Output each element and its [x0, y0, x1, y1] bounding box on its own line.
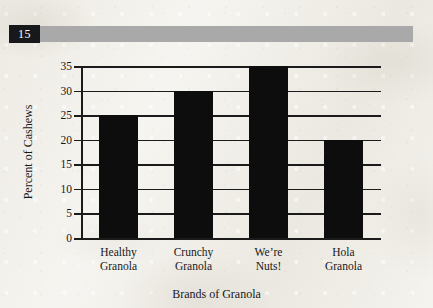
y-tick-label: 30 — [61, 85, 73, 97]
bar — [174, 91, 213, 238]
y-tick-label: 10 — [61, 183, 73, 195]
x-tick-label-line: Hola — [299, 246, 389, 260]
y-tick-label: 15 — [61, 158, 73, 170]
bar — [324, 140, 363, 238]
y-tick-mark — [74, 66, 81, 68]
y-tick-mark — [74, 189, 81, 191]
x-axis-title: Brands of Granola — [0, 287, 433, 302]
y-tick-mark — [74, 164, 81, 166]
gridline — [81, 91, 381, 93]
y-tick-mark — [74, 238, 81, 240]
gridline — [81, 66, 381, 68]
bar — [99, 115, 138, 238]
x-tick-label-line: Granola — [299, 260, 389, 274]
bar-chart-figure: Percent of Cashews 05101520253035 Health… — [0, 0, 433, 308]
plot-area: 05101520253035 — [81, 66, 381, 238]
y-tick-label: 25 — [61, 109, 73, 121]
y-axis-title: Percent of Cashews — [21, 105, 36, 200]
y-tick-label: 20 — [61, 134, 73, 146]
y-tick-mark — [74, 91, 81, 93]
x-tick-label: HolaGranola — [299, 246, 389, 273]
y-tick-mark — [74, 115, 81, 117]
y-tick-mark — [74, 213, 81, 215]
y-tick-mark — [74, 140, 81, 142]
bar — [249, 66, 288, 238]
gridline — [81, 238, 381, 240]
y-tick-label: 35 — [61, 60, 73, 72]
y-tick-label: 5 — [66, 207, 72, 219]
y-tick-label: 0 — [66, 232, 72, 244]
